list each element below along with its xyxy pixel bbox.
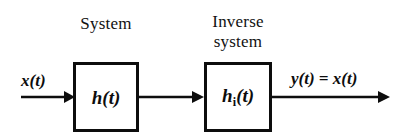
system-block-h-label: h(t): [92, 88, 121, 107]
system-block-h: h(t): [73, 62, 139, 132]
output-signal-label: y(t) = x(t): [291, 70, 357, 87]
input-signal-label: x(t): [21, 72, 46, 89]
block-h-main: h: [92, 87, 103, 108]
system-block-hi-label: hi(t): [222, 86, 254, 107]
output-arrow: [272, 88, 391, 108]
block-diagram: System Inverse system x(t) y(t) = x(t) h…: [0, 0, 401, 140]
block-h-suffix: (t): [102, 87, 120, 108]
block-hi-suffix: (t): [236, 85, 254, 106]
input-arrow: [20, 88, 75, 108]
caption-inverse-system: Inverse system: [178, 12, 298, 52]
middle-arrow: [139, 88, 205, 108]
caption-system: System: [46, 14, 166, 34]
system-block-hi: hi(t): [204, 62, 272, 132]
block-hi-main: h: [222, 85, 233, 106]
